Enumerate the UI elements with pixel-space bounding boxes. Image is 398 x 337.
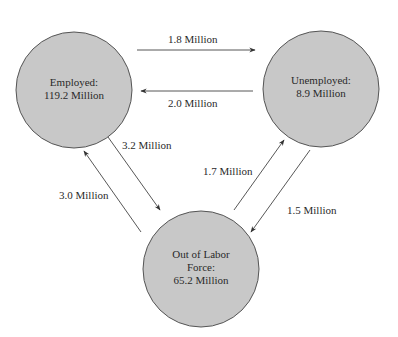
unemployed-title: Unemployed: [271,74,371,87]
unemployed-label: Unemployed: 8.9 Million [271,74,371,100]
flow-label-olf-to-employed: 3.0 Million [59,189,109,202]
olf-label: Out of Labor Force: 65.2 Million [151,248,251,287]
unemployed-value: 8.9 Million [271,87,371,100]
olf-title-2: Force: [151,261,251,274]
flow-label-olf-to-unemployed: 1.7 Million [203,165,253,178]
arrow-unemployed-to-olf [251,150,310,232]
olf-value: 65.2 Million [151,274,251,287]
employed-title: Employed: [24,76,124,89]
employed-label: Employed: 119.2 Million [24,76,124,102]
olf-title-1: Out of Labor [151,248,251,261]
flow-label-employed-to-olf: 3.2 Million [122,139,172,152]
flow-label-unemployed-to-olf: 1.5 Million [287,204,337,217]
flow-label-employed-to-unemployed: 1.8 Million [168,33,218,46]
employed-value: 119.2 Million [24,89,124,102]
flow-label-unemployed-to-employed: 2.0 Million [168,97,218,110]
